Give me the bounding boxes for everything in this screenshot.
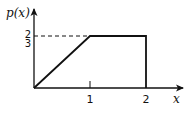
x-axis-label: x	[173, 92, 180, 106]
y-axis-label: p(x)	[6, 6, 30, 20]
x-tick-label-1: 1	[87, 93, 94, 106]
x-tick-label-2: 2	[143, 93, 150, 106]
density-plot: p(x) x 1 2 2 3	[0, 0, 187, 118]
density-curve	[34, 36, 146, 88]
y-tick-denominator: 3	[25, 38, 31, 49]
